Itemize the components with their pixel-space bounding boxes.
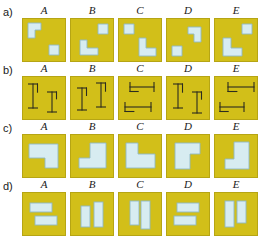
rect-vertical — [130, 201, 139, 225]
tile-c-c[interactable] — [118, 134, 162, 178]
figure-root: ABCDEa)ABCDEb)ABCDEc)ABCDEd) — [0, 0, 263, 243]
rect-vertical — [141, 201, 150, 229]
small-square — [172, 46, 182, 56]
column-header-a-a: A — [22, 4, 66, 16]
rect-vertical — [81, 206, 90, 227]
tile-a-e[interactable] — [214, 18, 258, 62]
column-header-b-b: B — [70, 62, 114, 74]
tile-a-a[interactable] — [22, 18, 66, 62]
column-header-c-d: D — [166, 120, 210, 132]
tile-a-c[interactable] — [118, 18, 162, 62]
column-header-c-c: C — [118, 120, 162, 132]
column-header-d-a: A — [22, 178, 66, 190]
tile-b-c[interactable] — [118, 76, 162, 120]
row-label-c: c) — [3, 122, 12, 134]
column-header-b-e: E — [214, 62, 258, 74]
column-header-b-a: A — [22, 62, 66, 74]
column-header-a-d: D — [166, 4, 210, 16]
column-header-d-d: D — [166, 178, 210, 190]
column-header-d-c: C — [118, 178, 162, 190]
rect-horizontal — [174, 216, 196, 225]
row-label-d: d) — [3, 180, 13, 192]
small-square — [242, 24, 252, 34]
tile-c-e[interactable] — [214, 134, 258, 178]
small-square — [98, 24, 108, 34]
column-header-d-e: E — [214, 178, 258, 190]
tile-d-e[interactable] — [214, 192, 258, 236]
column-header-c-e: E — [214, 120, 258, 132]
column-header-b-d: D — [166, 62, 210, 74]
rect-horizontal — [35, 216, 57, 225]
tile-b-e[interactable] — [214, 76, 258, 120]
column-header-a-c: C — [118, 4, 162, 16]
tile-d-d[interactable] — [166, 192, 210, 236]
tile-b-b[interactable] — [70, 76, 114, 120]
column-header-b-c: C — [118, 62, 162, 74]
tile-a-b[interactable] — [70, 18, 114, 62]
rect-vertical — [237, 201, 246, 223]
column-header-a-e: E — [214, 4, 258, 16]
column-header-d-b: B — [70, 178, 114, 190]
rect-horizontal — [30, 203, 52, 212]
tile-a-d[interactable] — [166, 18, 210, 62]
tile-b-a[interactable] — [22, 76, 66, 120]
rect-vertical — [94, 202, 103, 227]
tile-c-b[interactable] — [70, 134, 114, 178]
tile-d-a[interactable] — [22, 192, 66, 236]
small-square — [49, 45, 59, 55]
column-header-a-b: B — [70, 4, 114, 16]
tile-c-a[interactable] — [22, 134, 66, 178]
tile-d-c[interactable] — [118, 192, 162, 236]
row-label-a: a) — [3, 6, 13, 18]
rect-vertical — [225, 201, 234, 227]
column-header-c-a: A — [22, 120, 66, 132]
small-square — [124, 24, 134, 34]
tile-b-d[interactable] — [166, 76, 210, 120]
rect-horizontal — [177, 203, 199, 212]
tile-c-d[interactable] — [166, 134, 210, 178]
row-label-b: b) — [3, 64, 13, 76]
column-header-c-b: B — [70, 120, 114, 132]
tile-d-b[interactable] — [70, 192, 114, 236]
